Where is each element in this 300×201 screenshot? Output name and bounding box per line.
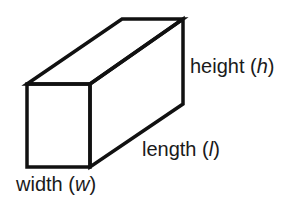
front-face (27, 84, 90, 167)
prism-diagram: height (h) length (l) width (w) (0, 0, 300, 201)
height-label: height (h) (190, 56, 275, 76)
prism-drawing (0, 0, 300, 201)
width-label: width (w) (16, 174, 96, 194)
length-label: length (l) (142, 139, 220, 159)
